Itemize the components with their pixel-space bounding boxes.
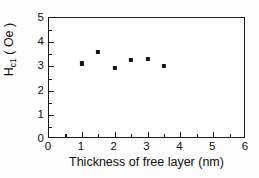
x-axis-tick-minor xyxy=(131,134,132,137)
y-axis-tick-label: 3 xyxy=(33,59,44,72)
x-axis-tick-minor xyxy=(230,134,231,137)
y-axis-tick-major xyxy=(49,115,54,116)
x-axis-tick-label: 5 xyxy=(209,140,215,153)
y-axis-tick-label: 1 xyxy=(33,107,44,120)
y-axis-tick-minor xyxy=(49,54,52,55)
plot-area xyxy=(48,17,245,138)
y-axis-tick-label: 2 xyxy=(33,83,44,96)
x-axis-tick-minor xyxy=(65,134,66,137)
y-axis-tick-label: 0 xyxy=(33,132,44,145)
x-axis-tick-minor xyxy=(164,134,165,137)
data-point xyxy=(113,66,117,70)
x-axis-tick-label: 6 xyxy=(242,140,248,153)
x-axis-tick-major xyxy=(115,132,116,137)
x-axis-tick-label: 0 xyxy=(45,140,51,153)
x-axis-tick-major xyxy=(148,132,149,137)
x-axis-tick-minor xyxy=(197,134,198,137)
data-points-layer xyxy=(49,18,244,137)
y-axis-title-unit: ( Oe ) xyxy=(2,23,16,55)
data-point xyxy=(96,50,100,54)
x-axis-tick-major xyxy=(82,132,83,137)
x-axis-tick-major xyxy=(180,132,181,137)
y-axis-tick-label: 5 xyxy=(33,11,44,24)
x-axis-tick-label: 4 xyxy=(176,140,182,153)
data-point xyxy=(129,58,133,62)
x-axis-tick-major xyxy=(213,132,214,137)
y-axis-tick-minor xyxy=(49,79,52,80)
x-axis-title: Thickness of free layer (nm) xyxy=(48,155,245,169)
y-axis-tick-major xyxy=(49,66,54,67)
x-axis-tick-label: 3 xyxy=(143,140,149,153)
data-point xyxy=(80,61,84,65)
y-axis-title-subscript: c1 xyxy=(7,58,17,67)
figure-canvas: 0123456 012345 Thickness of free layer (… xyxy=(0,0,259,178)
y-axis-tick-major xyxy=(49,42,54,43)
x-axis-tick-label: 2 xyxy=(110,140,116,153)
y-axis-tick-minor xyxy=(49,103,52,104)
data-point xyxy=(145,57,149,61)
y-axis-tick-major xyxy=(49,91,54,92)
y-axis-title-symbol: H xyxy=(2,67,16,76)
y-axis-tick-minor xyxy=(49,127,52,128)
y-axis-tick-label: 4 xyxy=(33,35,44,48)
x-axis-tick-minor xyxy=(98,134,99,137)
y-axis-title: Hc1 ( Oe ) xyxy=(2,0,17,115)
y-axis-tick-minor xyxy=(49,30,52,31)
data-point xyxy=(162,64,166,68)
x-axis-tick-label: 1 xyxy=(78,140,84,153)
